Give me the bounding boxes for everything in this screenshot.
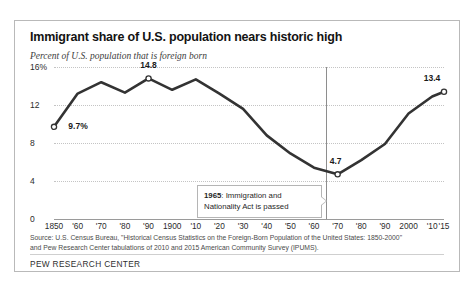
x-tick-label: '70 (96, 221, 107, 231)
y-tick-label: 4 (30, 176, 35, 186)
x-tick-label: '50 (285, 221, 296, 231)
series-line (54, 78, 444, 174)
data-point-marker (335, 172, 340, 177)
y-axis-labels: 0481216% (30, 67, 54, 219)
annotation-callout: 1965: Immigration and Nationality Act is… (197, 185, 322, 218)
source-note: Source: U.S. Census Bureau, "Historical … (30, 233, 450, 254)
x-tick-label: '70 (332, 221, 343, 231)
data-point-label: 14.8 (140, 60, 157, 70)
x-tick-label: '20 (214, 221, 225, 231)
data-point-marker (51, 124, 56, 129)
chart-subtitle: Percent of U.S. population that is forei… (30, 51, 207, 61)
x-tick-label: '90 (143, 221, 154, 231)
pew-research-center-footer: PEW RESEARCH CENTER (30, 259, 140, 269)
x-tick-label: '15 (439, 221, 450, 231)
x-tick-label: '80 (119, 221, 130, 231)
data-point-marker (441, 89, 446, 94)
x-tick-label: '80 (356, 221, 367, 231)
data-point-label: 9.7% (68, 121, 87, 131)
source-line-1: Source: U.S. Census Bureau, "Historical … (30, 233, 450, 243)
x-tick-label: '90 (379, 221, 390, 231)
x-axis-labels: 1850'60'70'80'901900'10'20'30'40'50'60'7… (30, 221, 444, 233)
y-tick-label: 12 (30, 100, 39, 110)
x-tick-label: '60 (309, 221, 320, 231)
y-tick-label: 16% (30, 62, 47, 72)
footer-divider (30, 254, 444, 255)
x-tick-label: 1850 (45, 221, 63, 231)
chart-card: Immigrant share of U.S. population nears… (14, 20, 460, 272)
y-tick-label: 8 (30, 138, 35, 148)
x-tick-label: '30 (238, 221, 249, 231)
x-tick-label: '10 (190, 221, 201, 231)
source-line-2: and Pew Research Center tabulations of 2… (30, 243, 450, 253)
x-tick-label: 2000 (399, 221, 417, 231)
annotation-year: 1965 (204, 191, 221, 200)
data-point-label: 13.4 (424, 73, 441, 83)
x-tick-label: 1900 (163, 221, 181, 231)
gridline (54, 219, 444, 220)
chart-title: Immigrant share of U.S. population nears… (30, 30, 342, 44)
x-tick-label: '60 (72, 221, 83, 231)
data-point-marker (146, 76, 151, 81)
data-point-label: 4.7 (330, 156, 342, 166)
x-tick-label: '40 (261, 221, 272, 231)
x-tick-label: '10 (427, 221, 438, 231)
chart-page: Immigrant share of U.S. population nears… (0, 0, 474, 285)
